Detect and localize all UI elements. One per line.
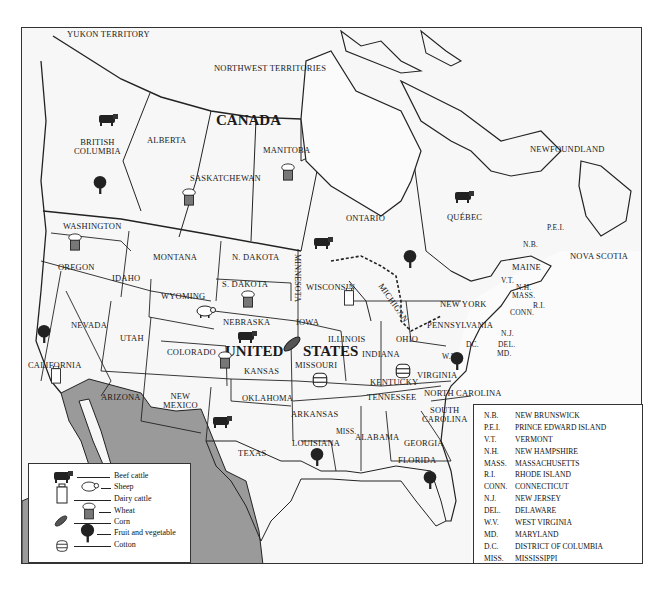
abbr-row: CONN.CONNECTICUT (484, 481, 642, 493)
label-ohio: OHIO (396, 335, 418, 344)
fruit-vegetable-icon (419, 471, 441, 489)
abbr-row: P.E.I.PRINCE EDWARD ISLAND (484, 422, 642, 434)
beef-cattle-icon (51, 470, 75, 484)
label-florida: FLORIDA (398, 456, 436, 465)
label-states: STATES (303, 344, 358, 360)
dairy-cattle-icon (45, 366, 67, 384)
label-tennessee: TENNESSEE (367, 393, 417, 402)
legend-label-wheat: Wheat (114, 506, 135, 515)
label-washington: WASHINGTON (63, 222, 122, 231)
abbr-row: W.V.WEST VIRGINIA (484, 517, 642, 529)
label-conn: CONN. (510, 309, 534, 317)
abbr-row: MD.MARYLAND (484, 529, 642, 541)
beef-cattle-icon (211, 413, 233, 431)
abbreviations-box: N.B.NEW BRUNSWICK P.E.I.PRINCE EDWARD IS… (473, 404, 643, 564)
label-vt: V.T. (501, 277, 514, 285)
label-wyoming: WYOMING (161, 292, 205, 301)
fruit-vegetable-icon (33, 325, 55, 343)
label-arizona: ARIZONA (101, 393, 141, 402)
label-louisiana: LOUISIANA (292, 439, 340, 448)
label-maine: MAINE (512, 263, 541, 272)
abbr-row: DEL.DELAWARE (484, 505, 642, 517)
dairy-cattle-icon (56, 483, 68, 505)
label-kansas: KANSAS (244, 367, 279, 376)
legend-label-corn: Corn (114, 517, 130, 526)
abbr-row: N.B.NEW BRUNSWICK (484, 410, 642, 422)
label-md: MD. (497, 350, 512, 358)
legend-box: Beef cattle Sheep Dairy cattle Wheat Cor… (28, 463, 191, 563)
cotton-icon (392, 362, 414, 380)
corn-icon (281, 335, 303, 353)
label-pennsylvania: PENNSYLVANIA (427, 321, 493, 330)
beef-cattle-icon (97, 111, 119, 129)
label-ri: R.I. (533, 302, 545, 310)
fruit-vegetable-icon (446, 352, 468, 370)
fruit-vegetable-icon (89, 176, 111, 194)
label-mass: MASS. (512, 292, 535, 300)
label-saskatchewan: SASKATCHEWAN (190, 174, 261, 183)
dairy-cattle-icon (338, 288, 360, 306)
label-virginia: VIRGINIA (417, 371, 457, 380)
label-n-dakota: N. DAKOTA (232, 253, 279, 262)
cotton-icon (309, 371, 331, 389)
fruit-vegetable-icon (399, 250, 421, 268)
legend-label-dairy-cattle: Dairy cattle (114, 494, 152, 503)
label-s-dakota: S. DAKOTA (222, 280, 268, 289)
wheat-icon (277, 163, 299, 181)
wheat-icon (64, 233, 86, 251)
label-indiana: INDIANA (362, 350, 400, 359)
label-texas: TEXAS (238, 449, 266, 458)
label-pei: P.E.I. (547, 224, 564, 232)
label-arkansas: ARKANSAS (291, 410, 338, 419)
label-missouri: MISSOURI (295, 361, 337, 370)
abbr-row: D.C.DISTRICT OF COLUMBIA (484, 541, 642, 553)
label-new-york: NEW YORK (440, 300, 487, 309)
label-minnesota: MINNESOTA (293, 254, 301, 302)
label-alberta: ALBERTA (147, 136, 186, 145)
label-oregon: OREGON (58, 263, 95, 272)
label-del: DEL. (498, 341, 515, 349)
label-georgia: GEORGIA (404, 439, 444, 448)
label-new-mexico: NEW MEXICO (163, 392, 198, 410)
wheat-icon (214, 351, 236, 369)
label-yukon: YUKON TERRITORY (67, 30, 150, 39)
label-oklahoma: OKLAHOMA (242, 394, 293, 403)
cotton-icon (55, 539, 69, 553)
sheep-icon (195, 303, 217, 321)
beef-cattle-icon (236, 328, 258, 346)
label-iowa: IOWA (296, 318, 319, 327)
label-british-columbia: BRITISH COLUMBIA (74, 138, 121, 156)
abbr-row: R.I.RHODE ISLAND (484, 469, 642, 481)
legend-label-sheep: Sheep (114, 482, 134, 491)
label-nova-scotia: NOVA SCOTIA (570, 252, 628, 261)
label-northwest-territories: NORTHWEST TERRITORIES (214, 64, 326, 73)
label-nevada: NEVADA (71, 321, 107, 330)
legend-label-fruit-vegetable: Fruit and vegetable (114, 528, 176, 537)
label-utah: UTAH (120, 334, 144, 343)
wheat-icon (82, 502, 96, 520)
label-alabama: ALABAMA (355, 433, 399, 442)
abbr-row: MASS.MASSACHUSETTS (484, 458, 642, 470)
label-south-carolina: SOUTH CAROLINA (422, 406, 468, 424)
label-idaho: IDAHO (112, 274, 140, 283)
corn-icon (53, 514, 69, 528)
abbr-row: N.J.NEW JERSEY (484, 493, 642, 505)
wheat-icon (178, 188, 200, 206)
label-quebec: QUÉBEC (447, 213, 482, 222)
label-canada: CANADA (216, 113, 281, 129)
label-north-carolina: NORTH CAROLINA (424, 389, 502, 398)
label-montana: MONTANA (153, 253, 197, 262)
abbr-row: MISS.MISSISSIPPI (484, 553, 642, 565)
label-ontario: ONTARIO (346, 214, 385, 223)
legend-label-beef-cattle: Beef cattle (114, 471, 148, 480)
label-dc: DC. (466, 341, 479, 349)
label-miss: MISS. (336, 428, 356, 436)
label-nebraska: NEBRASKA (223, 318, 270, 327)
label-nb: N.B. (523, 241, 538, 249)
legend-label-cotton: Cotton (114, 540, 136, 549)
fruit-vegetable-icon (306, 448, 328, 466)
label-newfoundland: NEWFOUNDLAND (530, 145, 605, 154)
label-colorado: COLORADO (167, 348, 216, 357)
abbr-row: V.T.VERMONT (484, 434, 642, 446)
sheep-icon (80, 481, 100, 494)
